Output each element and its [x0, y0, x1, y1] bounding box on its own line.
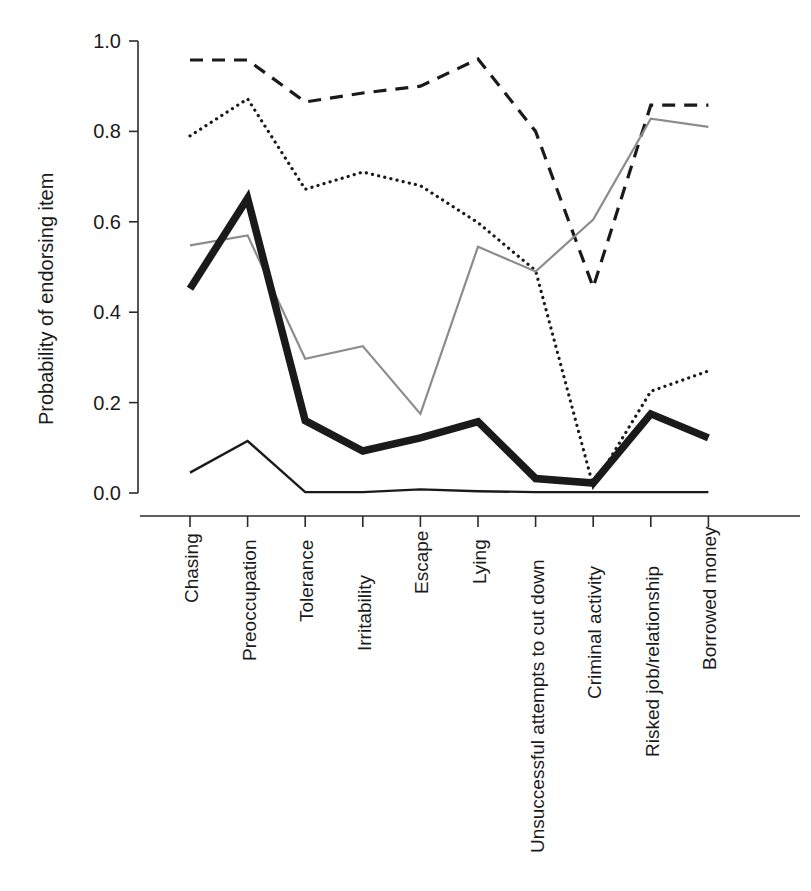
x-tick-label: Preoccupation: [240, 539, 259, 660]
x-tick-label: Irritability: [355, 575, 374, 651]
x-tick-label: Tolerance: [297, 540, 316, 622]
x-tick-label: Borrowed money: [700, 527, 719, 671]
data-series-group: [190, 59, 708, 492]
series-line-thick-black-series: [190, 198, 708, 483]
x-tick-label: Unsuccessful attempts to cut down: [528, 559, 547, 853]
x-tick-label: Lying: [470, 539, 489, 584]
x-tick-label: Criminal activity: [585, 566, 604, 699]
x-tick-label: Chasing: [182, 533, 201, 603]
y-tick-label: 0.0: [51, 483, 121, 503]
y-axis-title: Probability of endorsing item: [36, 173, 56, 425]
plot-area: [0, 0, 811, 891]
series-line-dashed-series: [190, 59, 708, 287]
x-tick-label: Escape: [412, 530, 431, 593]
series-line-thin-black-series: [190, 441, 708, 492]
y-tick-label: 1.0: [51, 31, 121, 51]
y-tick-label: 0.6: [51, 212, 121, 232]
y-tick-label: 0.4: [51, 302, 121, 322]
chart-container: 1.00.80.60.40.20.0 ChasingPreoccupationT…: [0, 0, 811, 891]
y-tick-label: 0.8: [51, 121, 121, 141]
x-tick-label: Risked job/relationship: [643, 566, 662, 757]
y-tick-label: 0.2: [51, 393, 121, 413]
